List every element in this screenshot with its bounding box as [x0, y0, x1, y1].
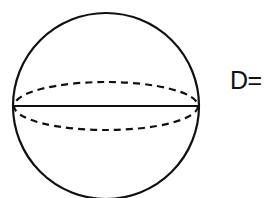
- sphere-diagram: [0, 0, 269, 198]
- diameter-label: D=: [230, 66, 262, 94]
